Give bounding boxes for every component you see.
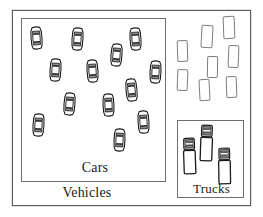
blank-rectangle-icon [200,25,213,49]
blank-rectangle-icon [226,76,238,98]
cars-label: Cars [78,160,112,175]
truck-icon [181,137,197,176]
car-icon [29,26,44,51]
diagram-canvas: Cars Vehicles Trucks [0,0,263,217]
car-icon [113,128,127,152]
car-icon [102,93,116,117]
blank-rectangle-icon [228,45,240,68]
car-icon [85,59,99,84]
blank-rectangle-icon [177,40,189,62]
car-icon [48,58,62,83]
truck-icon [198,124,214,163]
car-icon [31,113,45,138]
car-icon [124,77,139,102]
vehicles-label: Vehicles [57,185,117,200]
trucks-label: Trucks [188,182,235,196]
blank-rectangle-icon [207,56,218,78]
truck-icon [217,147,233,185]
car-icon [62,92,77,117]
car-icon [128,27,142,52]
blank-rectangle-icon [198,79,210,102]
car-icon [109,43,124,68]
car-icon [149,60,163,84]
car-icon [136,110,150,135]
blank-rectangle-icon [223,16,236,39]
car-icon [70,27,84,52]
blank-rectangle-icon [177,69,189,91]
